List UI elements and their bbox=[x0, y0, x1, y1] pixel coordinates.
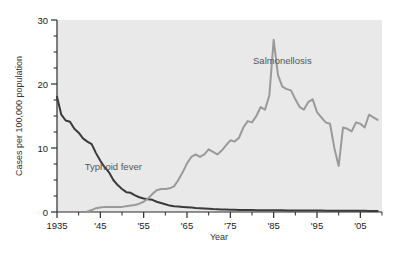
y-axis-tick-label: 10 bbox=[37, 143, 48, 154]
y-axis-tick-label: 0 bbox=[43, 207, 48, 218]
series-annotation-salmonellosis: Salmonellosis bbox=[253, 55, 312, 66]
x-axis-tick-label: '05 bbox=[354, 220, 366, 231]
x-axis-label: Year bbox=[210, 232, 228, 242]
plot-area-background bbox=[57, 20, 382, 212]
x-axis-tick-label: '45 bbox=[94, 220, 106, 231]
x-axis-tick-label: '55 bbox=[137, 220, 149, 231]
typhoid-salmonellosis-line-chart: 0102030 1935'45'55'65'75'85'95'05 Typhoi… bbox=[0, 0, 407, 256]
y-axis-tick-label: 20 bbox=[37, 79, 48, 90]
x-axis-tick-label: '75 bbox=[224, 220, 236, 231]
x-axis-tick-label: '95 bbox=[311, 220, 323, 231]
chart-figure: 0102030 1935'45'55'65'75'85'95'05 Typhoi… bbox=[0, 0, 407, 256]
y-axis-tick-label: 30 bbox=[37, 15, 48, 26]
x-axis-tick-label: '85 bbox=[267, 220, 279, 231]
x-axis-tick-label: '65 bbox=[181, 220, 193, 231]
x-axis-tick-label: 1935 bbox=[46, 220, 67, 231]
series-annotation-typhoid-fever: Typhoid fever bbox=[85, 161, 142, 172]
y-axis-label: Cases per 100,000 population bbox=[14, 56, 24, 176]
